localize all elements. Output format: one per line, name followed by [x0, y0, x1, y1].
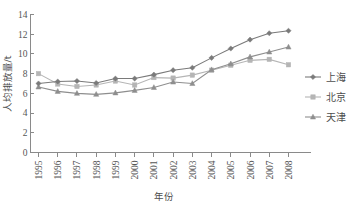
data-point-square [36, 71, 40, 75]
y-tick-label: 4 [23, 108, 28, 118]
data-point-triangle [286, 44, 291, 49]
x-tick-label: 2007 [265, 160, 275, 179]
data-point-diamond [286, 28, 291, 33]
data-point-square [190, 73, 194, 77]
x-tick-label: 1997 [72, 160, 82, 179]
x-tick-label: 1998 [92, 160, 102, 179]
data-point-square [267, 57, 271, 61]
chart-legend: 上海北京天津 [305, 71, 346, 123]
y-tick-label: 6 [23, 89, 28, 99]
chart-container: 02468101214 1995199619971998199920002001… [0, 0, 355, 205]
data-point-diamond [247, 37, 252, 42]
y-tick-label: 12 [18, 30, 28, 40]
x-tick-label: 2008 [284, 160, 294, 179]
x-axis-ticks: 1995199619971998199920002001200220032004… [34, 153, 294, 180]
x-tick-label: 2005 [226, 160, 236, 179]
legend-label: 北京 [326, 91, 346, 103]
data-point-square [311, 95, 315, 99]
x-tick-label: 2002 [169, 160, 179, 179]
axis-titles: 人均排放量/t年份 [2, 55, 174, 202]
x-tick-label: 1996 [53, 160, 63, 179]
y-axis-title: 人均排放量/t [2, 55, 13, 112]
data-point-diamond [74, 78, 79, 83]
y-axis-ticks: 02468101214 [18, 10, 34, 158]
x-axis-title: 年份 [154, 191, 174, 202]
data-point-diamond [132, 76, 137, 81]
legend-label: 天津 [326, 112, 346, 123]
y-tick-label: 2 [23, 128, 28, 138]
data-point-square [75, 84, 79, 88]
x-tick-label: 2003 [188, 160, 198, 179]
x-tick-label: 2001 [149, 160, 159, 179]
x-tick-label: 2000 [130, 160, 140, 179]
data-point-square [286, 63, 290, 67]
y-tick-label: 0 [23, 148, 28, 158]
legend-item-2[interactable]: 北京 [305, 91, 346, 103]
y-tick-label: 8 [23, 69, 28, 79]
series-layer [36, 28, 291, 96]
legend-item-1[interactable]: 上海 [305, 71, 346, 83]
line-chart: 02468101214 1995199619971998199920002001… [0, 0, 355, 205]
legend-label: 上海 [326, 71, 346, 83]
y-tick-label: 10 [18, 49, 28, 59]
x-tick-label: 1999 [111, 160, 121, 179]
data-point-diamond [310, 74, 315, 79]
data-point-diamond [209, 55, 214, 60]
data-point-diamond [267, 31, 272, 36]
x-tick-label: 2006 [246, 160, 256, 179]
series-3 [36, 44, 291, 96]
legend-item-3[interactable]: 天津 [305, 112, 346, 123]
x-tick-label: 2004 [207, 160, 217, 179]
y-tick-label: 14 [18, 10, 28, 20]
data-point-diamond [190, 65, 195, 70]
data-point-diamond [171, 68, 176, 73]
data-point-diamond [228, 46, 233, 51]
data-point-square [132, 83, 136, 87]
x-tick-label: 1995 [34, 160, 44, 179]
data-point-diamond [36, 81, 41, 86]
